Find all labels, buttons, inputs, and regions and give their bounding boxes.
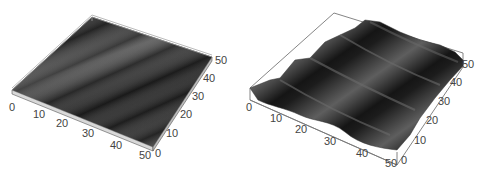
y-tick: 40 xyxy=(203,73,215,84)
y-tick: 10 xyxy=(414,135,426,146)
y-tick: 20 xyxy=(180,109,192,120)
y-tick: 30 xyxy=(192,91,204,102)
y-tick: 30 xyxy=(438,96,450,107)
right-surface-plot: 0 10 20 30 40 50 0 10 20 30 40 50 xyxy=(240,0,485,179)
x-tick: 20 xyxy=(56,118,68,129)
x-tick: 0 xyxy=(246,102,252,113)
x-tick: 50 xyxy=(385,158,397,169)
x-tick: 30 xyxy=(82,128,94,139)
y-tick: 50 xyxy=(462,59,474,70)
x-tick: 50 xyxy=(139,150,151,161)
x-tick: 20 xyxy=(295,124,307,135)
x-tick: 10 xyxy=(33,109,45,120)
x-tick: 40 xyxy=(356,148,368,159)
y-tick: 50 xyxy=(215,55,227,66)
x-tick: 30 xyxy=(324,136,336,147)
y-tick: 40 xyxy=(450,77,462,88)
y-tick: 0 xyxy=(401,155,407,166)
x-tick: 10 xyxy=(270,113,282,124)
x-tick: 40 xyxy=(110,140,122,151)
left-surface-graphic xyxy=(0,0,240,179)
y-tick: 20 xyxy=(426,115,438,126)
left-surface-plot: 0 10 20 30 40 50 0 10 20 30 40 50 xyxy=(0,0,240,179)
y-tick: 0 xyxy=(155,148,161,159)
y-tick: 10 xyxy=(166,128,178,139)
x-tick: 0 xyxy=(9,102,15,113)
